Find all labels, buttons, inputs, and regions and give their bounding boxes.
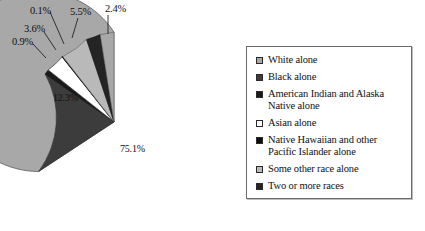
legend-swatch-icon-some-other-race [256, 166, 263, 173]
callout-label-native-hawaiian: 0.1% [30, 5, 51, 16]
legend-item-some-other-race: Some other race alone [256, 163, 407, 175]
legend-item-black-alone: Black alone [256, 71, 407, 83]
legend-label-american-indian: American Indian and Alaska Native alone [268, 88, 407, 112]
slice-label-black-alone: 12.3% [53, 92, 78, 103]
legend-item-white-alone: White alone [256, 54, 407, 66]
callout-label-some-other-race: 5.5% [70, 6, 91, 17]
callout-label-american-indian: 0.9% [12, 36, 33, 47]
legend-swatch-icon-black-alone [256, 74, 263, 81]
legend-label-native-hawaiian: Native Hawaiian and other Pacific Island… [268, 134, 407, 158]
legend-label-black-alone: Black alone [268, 71, 316, 83]
legend-label-asian-alone: Asian alone [268, 117, 316, 129]
legend-list: White alone Black alone American Indian … [256, 54, 407, 197]
slice-label-white-alone: 75.1% [120, 143, 145, 154]
legend-swatch-icon-native-hawaiian [256, 137, 263, 144]
legend-label-white-alone: White alone [268, 54, 317, 66]
legend-swatch-icon-two-or-more-races [256, 183, 263, 190]
legend-item-native-hawaiian: Native Hawaiian and other Pacific Island… [256, 134, 407, 158]
legend: White alone Black alone American Indian … [246, 46, 412, 199]
legend-label-two-or-more-races: Two or more races [268, 180, 344, 192]
legend-swatch-icon-american-indian [256, 91, 263, 98]
callout-label-two-or-more-races: 2.4% [105, 3, 126, 14]
legend-label-some-other-race: Some other race alone [268, 163, 358, 175]
legend-swatch-icon-asian-alone [256, 120, 263, 127]
callout-label-asian-alone: 3.6% [24, 23, 45, 34]
legend-item-american-indian: American Indian and Alaska Native alone [256, 88, 407, 112]
pie-chart-figure: 0.1% 5.5% 2.4% 3.6% 0.9% 12.3% 75.1% Whi… [0, 0, 425, 231]
legend-swatch-icon-white-alone [256, 57, 263, 64]
legend-item-asian-alone: Asian alone [256, 117, 407, 129]
legend-item-two-or-more-races: Two or more races [256, 180, 407, 192]
